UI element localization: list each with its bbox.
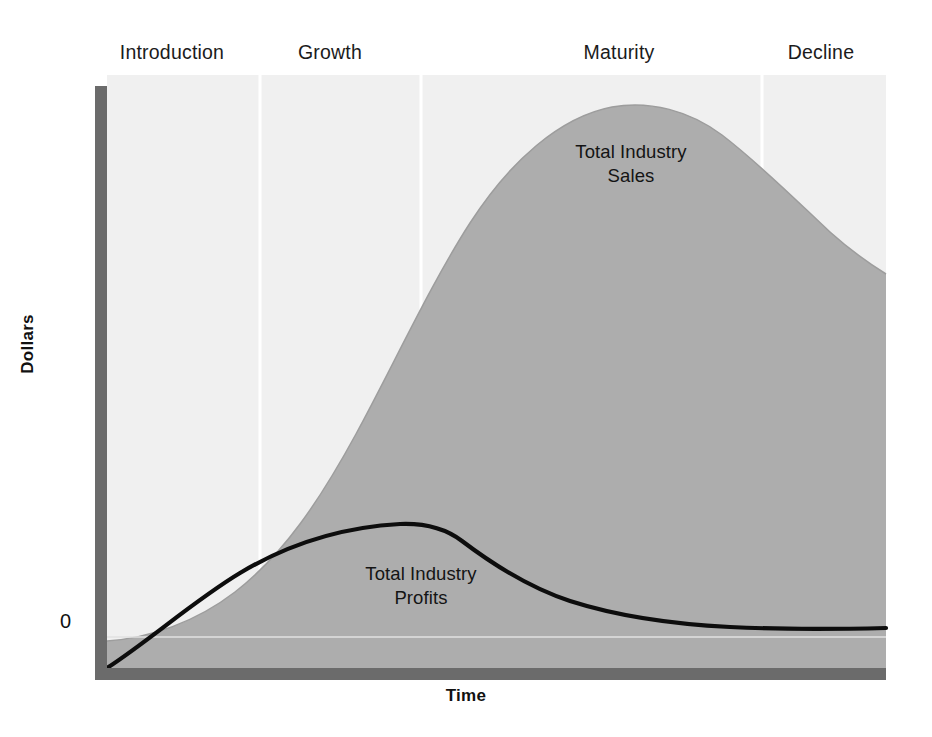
y-axis-title: Dollars [18,314,38,374]
product-life-cycle-chart [0,0,932,737]
total-industry-profits-label: Total Industry Profits [365,562,476,611]
y-axis-bar [95,86,107,668]
stage-label-maturity: Maturity [584,41,655,64]
y-axis-zero-tick-label: 0 [60,610,71,633]
stage-label-growth: Growth [298,41,362,64]
stage-label-decline: Decline [788,41,854,64]
x-axis-title: Time [0,686,932,706]
product-life-cycle-figure: Introduction Growth Maturity Decline Dol… [0,0,932,737]
stage-label-introduction: Introduction [120,41,224,64]
total-industry-sales-label: Total Industry Sales [575,140,686,189]
x-axis-bar [95,668,886,680]
